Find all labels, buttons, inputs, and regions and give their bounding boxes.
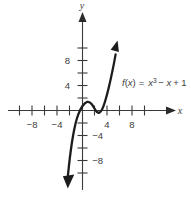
fn-term3: + 1	[173, 77, 186, 88]
y-tick-label--4: −4	[92, 130, 103, 141]
x-tick-label--4: −4	[52, 119, 63, 130]
curve-arrowhead-down	[63, 175, 74, 189]
x-tick-label--8: −8	[27, 119, 38, 130]
x-axis-arrowhead	[166, 107, 176, 115]
graph-figure: −8 −4 4 8 x 8 4 −4 −8 y	[0, 0, 191, 197]
function-label-text: f(x)=x3− x+ 1	[122, 77, 187, 88]
y-tick-label--8: −8	[92, 155, 103, 166]
fn-term1-exponent: 3	[153, 77, 157, 84]
function-annotation: f(x)=x3− x+ 1	[122, 77, 187, 88]
x-tick-label-4: 4	[104, 119, 109, 130]
fn-close-paren: )	[133, 77, 136, 88]
y-tick-label-4: 4	[65, 80, 70, 91]
x-tick-label-8: 8	[129, 119, 134, 130]
y-tick-label-8: 8	[65, 55, 70, 66]
x-axis-label: x	[177, 105, 183, 116]
curve-arrowhead-up	[111, 40, 119, 52]
fn-equals: =	[139, 77, 145, 88]
y-axis-label: y	[79, 0, 85, 11]
function-curve-group	[63, 40, 119, 188]
coordinate-plane-svg: −8 −4 4 8 x 8 4 −4 −8 y	[0, 0, 191, 197]
y-axis-arrowhead	[79, 12, 87, 22]
fn-term2: − x	[158, 77, 172, 88]
